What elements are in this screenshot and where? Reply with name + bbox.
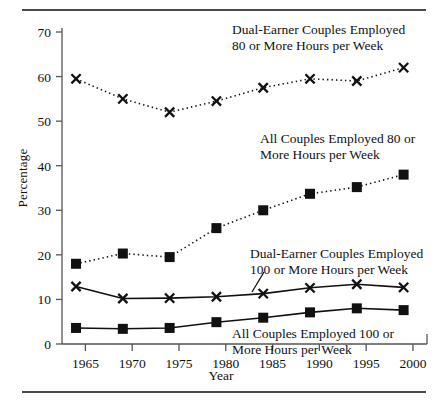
annotation-line-2: More Hours per Week <box>232 342 432 358</box>
svg-text:40: 40 <box>38 159 52 174</box>
annotation-line-1: All Couples Employed 100 or <box>232 326 432 342</box>
annotation-line-2: 100 or More Hours per Week <box>250 262 440 278</box>
svg-text:30: 30 <box>38 203 52 218</box>
svg-text:60: 60 <box>38 70 52 85</box>
annotation-line-1: Dual-Earner Couples Employed <box>250 246 440 262</box>
annotation-line-1: All Couples Employed 80 or <box>260 131 435 147</box>
y-axis-label: Percentage <box>15 133 31 223</box>
annotation-dual-earner-100: Dual-Earner Couples Employed 100 or More… <box>250 246 440 278</box>
annotation-all-couples-100: All Couples Employed 100 or More Hours p… <box>232 326 432 358</box>
annotation-line-2: More Hours per Week <box>260 147 435 163</box>
svg-text:50: 50 <box>38 114 52 129</box>
tick-labels: 0102030405060701965197019751980198519901… <box>38 25 427 371</box>
annotation-dual-earner-80: Dual-Earner Couples Employed 80 or More … <box>232 22 437 54</box>
svg-text:10: 10 <box>38 292 52 307</box>
x-axis-label: Year <box>0 368 442 384</box>
svg-text:0: 0 <box>44 337 51 352</box>
figure: 0102030405060701965197019751980198519901… <box>0 0 442 407</box>
svg-text:20: 20 <box>38 248 52 263</box>
annotation-line-1: Dual-Earner Couples Employed <box>232 22 437 38</box>
annotation-all-couples-80: All Couples Employed 80 or More Hours pe… <box>260 131 435 163</box>
annotation-line-2: 80 or More Hours per Week <box>232 38 437 54</box>
svg-text:70: 70 <box>38 25 52 40</box>
data-series <box>71 63 409 334</box>
